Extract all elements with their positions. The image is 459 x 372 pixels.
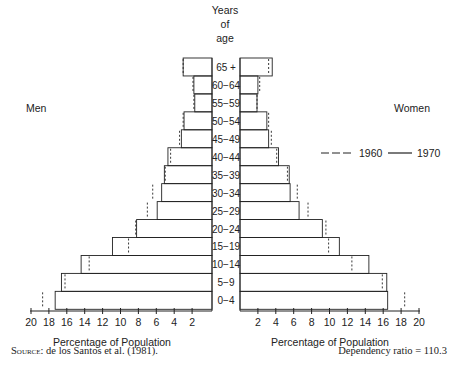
header-line: Years	[212, 4, 238, 16]
source-text: de los Santos et al. (1981).	[43, 345, 157, 356]
left-tick-label: 6	[153, 316, 159, 328]
left-tick-label: 18	[43, 316, 55, 328]
left-tick-label: 4	[171, 316, 177, 328]
bars	[43, 58, 405, 311]
men-1970-bar	[181, 130, 212, 148]
age-label: 35−39	[212, 170, 241, 181]
population-pyramid-chart: Yearsofage MenWomen 19601970 65 +60−6455…	[0, 0, 459, 372]
women-1970-bar	[240, 58, 272, 76]
women-1970-bar	[240, 94, 257, 112]
age-label: 55−59	[212, 98, 241, 109]
left-tick-label: 12	[97, 316, 109, 328]
age-label: 5−9	[218, 277, 235, 288]
men-1970-bar	[55, 291, 212, 309]
men-1970-bar	[168, 148, 212, 166]
axes: 20181614121086422468101214161820Percenta…	[25, 308, 425, 348]
men-1970-bar	[162, 184, 212, 202]
right-tick-label: 12	[342, 316, 354, 328]
women-1970-bar	[240, 130, 269, 148]
header-line: of	[221, 18, 230, 30]
age-labels: 65 +60−6455−5950−5445−4940−4435−3930−342…	[212, 62, 241, 306]
women-1970-bar	[240, 184, 290, 202]
men-1970-bar	[112, 238, 212, 256]
center-header: Yearsofage	[212, 4, 238, 44]
age-label: 65 +	[216, 62, 236, 73]
age-label: 40−44	[212, 152, 241, 163]
women-1970-bar	[240, 255, 369, 273]
legend-1970-label: 1970	[417, 147, 441, 159]
right-tick-label: 2	[255, 316, 261, 328]
left-tick-label: 20	[25, 316, 37, 328]
right-tick-label: 20	[413, 316, 425, 328]
legend-1960-label: 1960	[359, 147, 383, 159]
legend: 19601970	[321, 147, 441, 159]
age-label: 50−54	[212, 116, 241, 127]
women-1970-bar	[240, 202, 299, 220]
header-line: age	[216, 32, 234, 44]
left-tick-label: 2	[189, 316, 195, 328]
women-1970-bar	[240, 148, 278, 166]
men-1970-bar	[184, 112, 212, 130]
women-1970-bar	[240, 291, 388, 309]
source-prefix: Source:	[11, 345, 43, 356]
age-label: 10−14	[212, 259, 241, 270]
women-1970-bar	[240, 166, 289, 184]
men-1970-bar	[61, 273, 212, 291]
men-1970-bar	[195, 94, 212, 112]
women-1970-bar	[240, 112, 267, 130]
right-tick-label: 14	[359, 316, 371, 328]
men-1970-bar	[164, 166, 212, 184]
women-1970-bar	[240, 76, 258, 94]
age-label: 45−49	[212, 134, 241, 145]
age-label: 0−4	[218, 295, 235, 306]
men-1970-bar	[157, 202, 212, 220]
women-1970-bar	[240, 238, 339, 256]
left-tick-label: 10	[115, 316, 127, 328]
men-1970-bar	[81, 255, 212, 273]
right-tick-label: 8	[309, 316, 315, 328]
right-tick-label: 4	[273, 316, 279, 328]
right-tick-label: 18	[395, 316, 407, 328]
age-label: 30−34	[212, 188, 241, 199]
women-1970-bar	[240, 220, 322, 238]
right-tick-label: 16	[377, 316, 389, 328]
age-label: 60−64	[212, 80, 241, 91]
age-label: 15−19	[212, 241, 241, 252]
women-1970-bar	[240, 273, 387, 291]
right-tick-label: 10	[324, 316, 336, 328]
left-tick-label: 8	[135, 316, 141, 328]
men-1970-bar	[137, 220, 212, 238]
source-note: Source: de los Santos et al. (1981).	[11, 345, 158, 356]
left-tick-label: 14	[79, 316, 91, 328]
men-1970-bar	[194, 76, 212, 94]
age-label: 20−24	[212, 224, 241, 235]
women-label: Women	[394, 102, 430, 114]
left-tick-label: 16	[61, 316, 73, 328]
men-1970-bar	[183, 58, 212, 76]
men-label: Men	[26, 102, 47, 114]
right-tick-label: 6	[291, 316, 297, 328]
dependency-ratio: Dependency ratio = 110.3	[338, 345, 447, 356]
age-label: 25−29	[212, 206, 241, 217]
